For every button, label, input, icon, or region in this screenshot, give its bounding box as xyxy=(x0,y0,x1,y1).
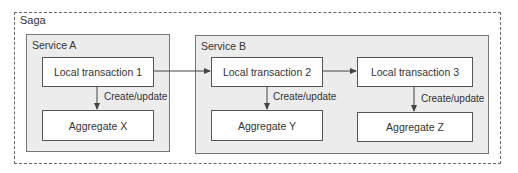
local-transaction-2: Local transaction 2 xyxy=(211,57,323,87)
create-update-label-1: Create/update xyxy=(104,91,167,102)
aggregate-x: Aggregate X xyxy=(42,110,154,141)
aggregate-y: Aggregate Y xyxy=(211,110,323,141)
aggregate-z: Aggregate Z xyxy=(357,112,473,142)
create-update-label-2: Create/update xyxy=(273,91,336,102)
local-transaction-3: Local transaction 3 xyxy=(357,57,473,87)
create-update-label-3: Create/update xyxy=(421,93,484,104)
local-transaction-1: Local transaction 1 xyxy=(42,57,154,87)
